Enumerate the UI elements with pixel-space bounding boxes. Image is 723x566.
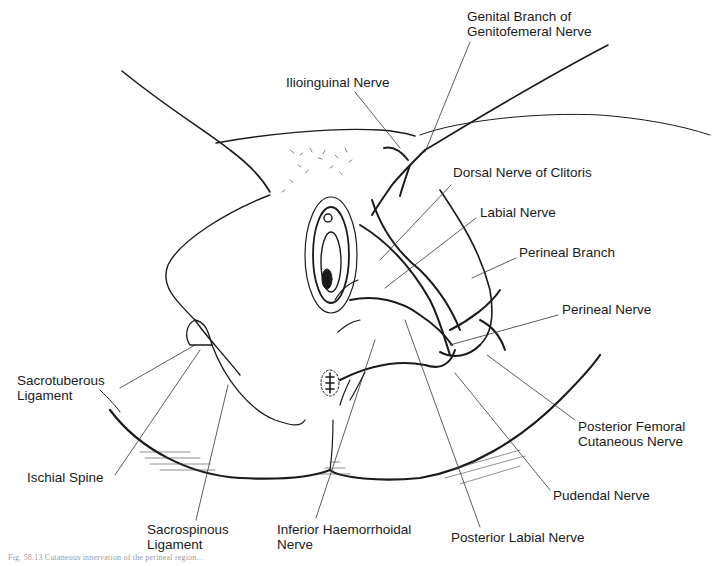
label-posterior-labial: Posterior Labial Nerve <box>451 530 585 545</box>
label-pudendal-nerve: Pudendal Nerve <box>553 488 650 503</box>
label-line: Ligament <box>17 388 105 403</box>
label-genital-branch: Genital Branch of Genitofemeral Nerve <box>467 9 592 39</box>
label-line: Labial Nerve <box>480 205 556 220</box>
label-inferior-haemorrhoidal: Inferior Haemorrhoidal Nerve <box>277 522 411 552</box>
label-line: Ischial Spine <box>27 470 104 485</box>
figure-caption: Fig. 58.13 Cutaneous innervation of the … <box>8 553 203 562</box>
label-sacrotuberous-ligament: Sacrotuberous Ligament <box>17 373 105 403</box>
label-line: Nerve <box>277 537 411 552</box>
label-line: Sacrotuberous <box>17 373 105 388</box>
label-line: Sacrospinous <box>147 522 229 537</box>
label-dorsal-nerve-clitoris: Dorsal Nerve of Clitoris <box>453 165 592 180</box>
label-posterior-femoral-cutaneous: Posterior Femoral Cutaneous Nerve <box>578 419 685 449</box>
label-line: Perineal Nerve <box>562 302 651 317</box>
label-labial-nerve: Labial Nerve <box>480 205 556 220</box>
label-perineal-branch: Perineal Branch <box>519 245 615 260</box>
label-line: Perineal Branch <box>519 245 615 260</box>
label-line: Ligament <box>147 537 229 552</box>
label-ilioinguinal: Ilioinguinal Nerve <box>286 75 390 90</box>
anatomy-figure: Genital Branch of Genitofemeral Nerve Il… <box>0 0 723 566</box>
label-ischial-spine: Ischial Spine <box>27 470 104 485</box>
label-line: Genital Branch of <box>467 9 592 24</box>
label-line: Posterior Labial Nerve <box>451 530 585 545</box>
label-line: Cutaneous Nerve <box>578 434 685 449</box>
label-sacrospinous-ligament: Sacrospinous Ligament <box>147 522 229 552</box>
label-perineal-nerve: Perineal Nerve <box>562 302 651 317</box>
label-line: Ilioinguinal Nerve <box>286 75 390 90</box>
label-line: Genitofemeral Nerve <box>467 24 592 39</box>
label-line: Dorsal Nerve of Clitoris <box>453 165 592 180</box>
label-line: Inferior Haemorrhoidal <box>277 522 411 537</box>
label-line: Pudendal Nerve <box>553 488 650 503</box>
label-line: Posterior Femoral <box>578 419 685 434</box>
